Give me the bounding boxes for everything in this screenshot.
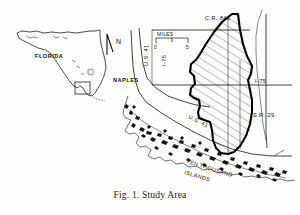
study-area-map: FLORIDA N MILES 0 5 [0, 0, 300, 215]
study-area-polygon [190, 14, 252, 154]
florida-state-inset: FLORIDA [17, 30, 106, 101]
scale-tick-min: 0 [154, 44, 157, 50]
scale-tick-max: 5 [186, 44, 189, 50]
florida-label: FLORIDA [35, 53, 63, 59]
florida-inner-detail [26, 36, 67, 39]
eastern-boundary [256, 10, 266, 140]
florida-coast-nick [72, 60, 84, 75]
florida-keys [93, 97, 105, 101]
sr-29-label: S.R. 29 [253, 112, 274, 118]
north-arrow-label: N [116, 38, 121, 45]
scale-bar-title: MILES [157, 31, 174, 37]
us-41-vertical-label: U.S. 41 [143, 45, 149, 66]
study-area-hatch-fill [190, 14, 252, 154]
cr-846-label: C.R. 846 [205, 15, 230, 21]
florida-lake-okeechobee [88, 69, 94, 75]
i-75-vertical-label: I-75 [161, 55, 167, 66]
figure-container: FLORIDA N MILES 0 5 [0, 0, 300, 215]
figure-caption: Fig. 1. Study Area [0, 190, 300, 200]
minor-road-ticks [240, 142, 284, 156]
i-75-east-label: I-75 [255, 78, 266, 84]
ten-thousand-islands-line3: ISLANDS [184, 169, 211, 183]
naples-label: NAPLES [113, 77, 139, 83]
florida-outline [17, 30, 106, 96]
north-arrow: N [107, 34, 121, 55]
scale-bar: MILES 0 5 [154, 31, 189, 50]
